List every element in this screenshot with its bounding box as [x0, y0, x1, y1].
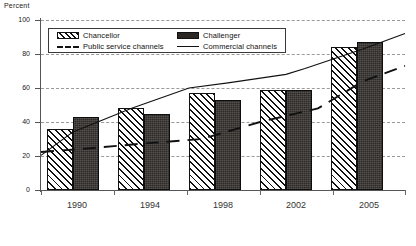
y-axis-title: Percent	[4, 2, 30, 9]
solid-swatch-icon	[177, 32, 199, 39]
legend-item-challenger[interactable]: Challenger	[177, 31, 240, 40]
legend-row-1: Chancellor Challenger	[49, 30, 285, 41]
x-tick-label-2002: 2002	[266, 200, 326, 210]
hatched-swatch-icon	[57, 32, 79, 39]
solid-line-icon	[177, 43, 199, 50]
y-tick-label-0: 0	[0, 186, 30, 193]
line-public-service-channels	[41, 66, 405, 152]
y-tick-label-60: 60	[0, 84, 30, 91]
x-axis-line	[40, 190, 406, 191]
x-tick-3	[260, 190, 261, 195]
x-tick-4	[333, 190, 334, 195]
legend-item-commercial-channels[interactable]: Commercial channels	[177, 42, 277, 51]
legend-label-commercial-channels: Commercial channels	[203, 42, 277, 51]
legend-item-chancellor[interactable]: Chancellor	[57, 31, 175, 40]
chart-legend: Chancellor Challenger Public service cha…	[48, 28, 286, 53]
x-tick-label-1990: 1990	[47, 200, 107, 210]
y-tick-label-100: 100	[0, 16, 30, 23]
legend-row-2: Public service channels Commercial chann…	[49, 41, 285, 52]
x-tick-end	[405, 190, 406, 195]
dashed-line-icon	[57, 43, 79, 50]
x-tick-start	[41, 190, 42, 195]
x-tick-label-1998: 1998	[193, 200, 253, 210]
legend-label-public-service-channels: Public service channels	[83, 42, 164, 51]
x-tick-2	[187, 190, 188, 195]
y-tick-label-80: 80	[0, 50, 30, 57]
legend-label-chancellor: Chancellor	[83, 31, 120, 40]
legend-label-challenger: Challenger	[203, 31, 240, 40]
y-tick-label-40: 40	[0, 118, 30, 125]
legend-item-public-service-channels[interactable]: Public service channels	[57, 42, 175, 51]
x-tick-label-1994: 1994	[120, 200, 180, 210]
x-tick-1	[114, 190, 115, 195]
y-tick-label-20: 20	[0, 152, 30, 159]
chart-container: Percent 100 80 60 40 20 0	[0, 0, 416, 246]
x-tick-label-2005: 2005	[339, 200, 399, 210]
